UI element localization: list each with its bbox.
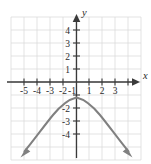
y-tick-label: 2	[65, 52, 70, 62]
coordinate-plane: -5 -4 -3 -2 -1 1 2 3 4 3 2 1 -2 -3 -4 x …	[0, 0, 151, 164]
x-tick-label: -2	[59, 86, 67, 96]
x-axis-label: x	[142, 70, 148, 81]
y-tick-label: -4	[62, 130, 70, 140]
x-tick-label: -5	[20, 86, 28, 96]
x-tick-label: 3	[113, 86, 118, 96]
x-tick-label: -3	[46, 86, 54, 96]
graph-figure: -5 -4 -3 -2 -1 1 2 3 4 3 2 1 -2 -3 -4 x …	[0, 0, 151, 164]
y-tick-label: 1	[65, 65, 70, 75]
x-tick-label: 2	[100, 86, 105, 96]
y-axis-label: y	[81, 7, 87, 18]
y-tick-label: 4	[65, 26, 70, 36]
x-tick-label: 1	[87, 86, 92, 96]
y-tick-label: 3	[65, 39, 70, 49]
x-tick-label: -1	[68, 86, 76, 96]
x-tick-label: -4	[33, 86, 41, 96]
y-tick-label: -3	[62, 117, 70, 127]
x-tick-labels: -5 -4 -3 -2 -1 1 2 3	[20, 86, 118, 96]
